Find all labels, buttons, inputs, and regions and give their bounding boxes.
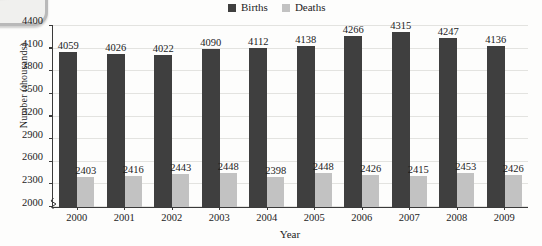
x-tick-label: 2001 bbox=[114, 212, 135, 223]
x-tick-mark bbox=[219, 207, 220, 210]
bar-births[interactable]: 4112 bbox=[249, 48, 267, 207]
bar-deaths[interactable]: 2453 bbox=[457, 173, 474, 207]
bar-value-label: 4315 bbox=[390, 20, 411, 31]
bar-births[interactable]: 4136 bbox=[487, 46, 505, 207]
scan-artifact-shading bbox=[0, 0, 9, 1]
x-tick-mark bbox=[267, 207, 268, 210]
legend-swatch-births bbox=[228, 4, 236, 12]
bar-deaths[interactable]: 2426 bbox=[362, 175, 379, 207]
x-tick-label: 2003 bbox=[209, 212, 230, 223]
x-tick-mark bbox=[409, 207, 410, 210]
bar-group: 411223982004 bbox=[243, 26, 291, 207]
y-tick-label: 4400 bbox=[22, 14, 43, 25]
bar-group: 409024482003 bbox=[196, 26, 244, 207]
bar-value-label: 2443 bbox=[170, 162, 191, 173]
x-tick-mark bbox=[504, 207, 505, 210]
bar-value-label: 2426 bbox=[360, 163, 381, 174]
bar-value-label: 4247 bbox=[438, 26, 459, 37]
x-tick-label: 2005 bbox=[304, 212, 325, 223]
x-tick-mark bbox=[457, 207, 458, 210]
y-tick-label: 4100 bbox=[22, 37, 43, 48]
bar-deaths[interactable]: 2443 bbox=[172, 174, 189, 207]
legend-entry-deaths: Deaths bbox=[282, 2, 326, 13]
bar-deaths[interactable]: 2416 bbox=[125, 176, 142, 207]
x-tick-mark bbox=[124, 207, 125, 210]
bar-group: 431524152007 bbox=[386, 26, 434, 207]
y-tick-label: 2300 bbox=[22, 174, 43, 185]
bar-value-label: 4112 bbox=[248, 36, 269, 47]
bar-value-label: 2403 bbox=[75, 165, 96, 176]
chart-legend: BirthsDeaths bbox=[228, 2, 325, 13]
bar-value-label: 2448 bbox=[218, 161, 239, 172]
bar-births[interactable]: 4090 bbox=[202, 49, 220, 207]
bar-value-label: 4090 bbox=[200, 37, 221, 48]
bar-births[interactable]: 4026 bbox=[107, 54, 125, 207]
bar-value-label: 2426 bbox=[503, 163, 524, 174]
bar-group: 413624262009 bbox=[481, 26, 529, 207]
bar-value-label: 2416 bbox=[123, 164, 144, 175]
bar-groups: 4059240320004026241620014022244320024090… bbox=[53, 26, 528, 207]
bar-group: 426624262006 bbox=[338, 26, 386, 207]
plot-area: 200023002600290032003500380041004400 405… bbox=[52, 26, 528, 208]
bar-value-label: 4026 bbox=[105, 42, 126, 53]
x-tick-label: 2009 bbox=[494, 212, 515, 223]
y-tick-label: 3200 bbox=[22, 105, 43, 116]
bar-value-label: 2448 bbox=[313, 161, 334, 172]
bar-value-label: 4136 bbox=[485, 34, 506, 45]
bar-deaths[interactable]: 2415 bbox=[410, 176, 427, 207]
bar-births[interactable]: 4247 bbox=[439, 38, 457, 207]
x-tick-mark bbox=[362, 207, 363, 210]
y-tick-label: 2000 bbox=[22, 197, 43, 208]
legend-swatch-deaths bbox=[282, 4, 290, 12]
bar-deaths[interactable]: 2426 bbox=[505, 175, 522, 207]
bar-value-label: 2398 bbox=[265, 165, 286, 176]
x-tick-label: 2000 bbox=[66, 212, 87, 223]
y-tick-label: 2900 bbox=[22, 128, 43, 139]
bar-chart: BirthsDeaths Number (thousands) 20002300… bbox=[0, 0, 542, 246]
bar-value-label: 4022 bbox=[153, 43, 174, 54]
bar-deaths[interactable]: 2448 bbox=[220, 173, 237, 207]
bar-births[interactable]: 4138 bbox=[297, 46, 315, 207]
bar-births[interactable]: 4059 bbox=[59, 52, 77, 207]
y-tick-label: 2600 bbox=[22, 151, 43, 162]
legend-label: Births bbox=[241, 2, 268, 13]
bar-group: 424724532008 bbox=[433, 26, 481, 207]
bar-value-label: 4059 bbox=[58, 40, 79, 51]
bar-deaths[interactable]: 2403 bbox=[77, 177, 94, 207]
bar-group: 413824482005 bbox=[291, 26, 339, 207]
bar-births[interactable]: 4022 bbox=[154, 55, 172, 207]
x-tick-mark bbox=[172, 207, 173, 210]
y-tick-label: 3500 bbox=[22, 83, 43, 94]
x-tick-mark bbox=[314, 207, 315, 210]
y-tick-label: 3800 bbox=[22, 60, 43, 71]
bar-births[interactable]: 4266 bbox=[344, 36, 362, 207]
x-tick-label: 2006 bbox=[351, 212, 372, 223]
x-tick-label: 2004 bbox=[256, 212, 277, 223]
bar-value-label: 2415 bbox=[408, 164, 429, 175]
bar-group: 402624162001 bbox=[101, 26, 149, 207]
x-tick-label: 2002 bbox=[161, 212, 182, 223]
bar-deaths[interactable]: 2448 bbox=[315, 173, 332, 207]
bar-deaths[interactable]: 2398 bbox=[267, 177, 284, 207]
legend-entry-births: Births bbox=[228, 2, 268, 13]
bar-births[interactable]: 4315 bbox=[392, 32, 410, 207]
bar-value-label: 4138 bbox=[295, 34, 316, 45]
x-tick-label: 2008 bbox=[446, 212, 467, 223]
x-tick-mark bbox=[77, 207, 78, 210]
bar-value-label: 2453 bbox=[455, 161, 476, 172]
x-tick-label: 2007 bbox=[399, 212, 420, 223]
x-axis-title: Year bbox=[52, 228, 528, 240]
bar-value-label: 4266 bbox=[343, 24, 364, 35]
bar-group: 405924032000 bbox=[53, 26, 101, 207]
legend-label: Deaths bbox=[295, 2, 326, 13]
bar-group: 402224432002 bbox=[148, 26, 196, 207]
